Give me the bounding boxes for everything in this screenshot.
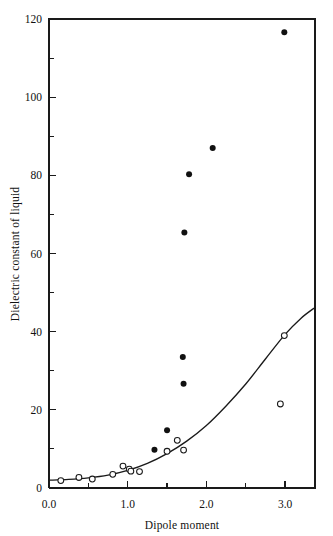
data-point-open [58, 478, 64, 484]
y-axis-tick-labels: 020406080100120 [25, 13, 43, 494]
y-tick-label: 0 [36, 482, 42, 494]
data-point-filled [186, 171, 192, 177]
data-point-filled [181, 229, 187, 235]
data-point-filled [164, 427, 170, 433]
plot-border [49, 19, 315, 488]
filled-circle-series [151, 29, 287, 452]
y-tick-label: 20 [31, 404, 43, 416]
x-axis-title: Dipole moment [145, 519, 220, 532]
data-point-open [164, 448, 170, 454]
data-point-filled [210, 145, 216, 151]
y-tick-label: 120 [25, 13, 43, 25]
y-tick-label: 80 [31, 169, 43, 181]
y-axis-ticks [49, 19, 56, 488]
y-axis-title: Dielectric constant of liquid [9, 187, 22, 322]
data-point-filled [181, 381, 187, 387]
axis-frame [49, 19, 315, 488]
data-point-open [174, 437, 180, 443]
open-circle-series [58, 333, 287, 484]
x-axis-tick-labels: 0.01.02.03.0 [42, 498, 293, 510]
data-point-open [110, 471, 116, 477]
data-point-open [137, 469, 143, 475]
data-point-open [120, 463, 126, 469]
y-tick-label: 100 [25, 91, 43, 103]
x-tick-label: 3.0 [278, 498, 293, 510]
data-point-open [181, 447, 187, 453]
y-tick-label: 40 [31, 326, 43, 338]
y-tick-label: 60 [31, 248, 43, 260]
data-point-open [281, 333, 287, 339]
x-tick-label: 2.0 [199, 498, 214, 510]
data-point-open [76, 475, 82, 481]
fit-curve-path [49, 307, 315, 480]
data-point-filled [281, 29, 287, 35]
data-point-open [128, 468, 134, 474]
data-point-filled [151, 447, 157, 453]
data-point-open [89, 476, 95, 482]
chart-figure: 020406080100120 0.01.02.03.0 Dipole mome… [0, 0, 333, 536]
fitted-curve [49, 307, 315, 480]
x-tick-label: 0.0 [42, 498, 57, 510]
x-axis-ticks [49, 481, 285, 488]
data-point-open [277, 401, 283, 407]
scatter-plot: 020406080100120 0.01.02.03.0 Dipole mome… [0, 0, 333, 536]
x-tick-label: 1.0 [121, 498, 136, 510]
data-point-filled [180, 354, 186, 360]
